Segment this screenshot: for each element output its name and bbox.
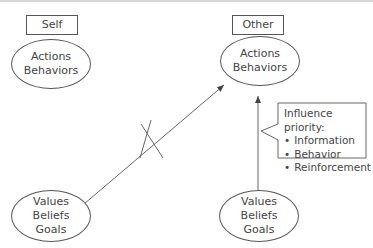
node-line: Beliefs [241,209,278,223]
callout-item: Information [284,134,372,148]
other-actions-node: Actions Behaviors [220,36,300,86]
node-line: Goals [244,223,275,237]
node-line: Actions [240,47,280,61]
self-actions-node: Actions Behaviors [11,39,91,89]
node-line: Actions [31,50,71,64]
node-line: Values [33,195,69,209]
node-line: Behaviors [24,64,79,78]
self-values-node: Values Beliefs Goals [11,190,91,242]
node-line: Goals [36,223,67,237]
node-line: Beliefs [33,209,70,223]
callout-item: Behavior [284,148,372,162]
callout-list: Information Behavior Reinforcement [284,134,372,175]
callout-title: Influence priority: [284,107,372,134]
node-line: Behaviors [233,61,288,75]
node-line: Values [241,195,277,209]
other-values-node: Values Beliefs Goals [219,190,299,242]
callout-item: Reinforcement [284,161,372,175]
influence-priority-callout: Influence priority: Information Behavior… [280,104,373,178]
